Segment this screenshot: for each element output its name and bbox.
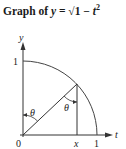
t-axis-arrow-icon (105, 133, 113, 138)
y-axis-arrow-icon (21, 42, 26, 50)
unit-circle-diagram: y t 1 0 x 1 θ θ (0, 0, 126, 149)
theta-label-top: θ (64, 102, 69, 113)
angle-arrow-icon (23, 113, 27, 117)
y-axis-label: y (18, 32, 24, 43)
t-one-label: 1 (94, 138, 99, 149)
angle-arrow-icon (73, 100, 77, 104)
t-axis-label: t (115, 129, 118, 140)
x-point-label: x (73, 138, 79, 149)
y-one-label: 1 (13, 56, 18, 67)
theta-label-origin: θ (30, 107, 35, 118)
origin-label: 0 (16, 138, 21, 149)
